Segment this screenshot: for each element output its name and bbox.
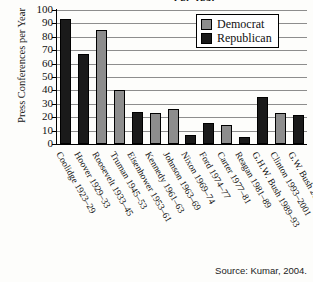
y-axis-tick <box>52 64 57 65</box>
gridline <box>57 77 307 78</box>
bar <box>168 109 179 144</box>
chart-title: Per Year <box>120 0 270 1</box>
y-axis-tick-label-wrap: 60 <box>29 58 53 69</box>
y-axis-tick-label: 90 <box>31 17 53 28</box>
gridline <box>57 90 307 91</box>
bar <box>203 123 214 144</box>
y-axis-tick <box>52 131 57 132</box>
y-axis-title: Press Conferences per Year <box>16 0 27 141</box>
bar <box>275 113 286 144</box>
y-axis-tick <box>52 37 57 38</box>
y-axis-tick-label: 60 <box>31 58 53 69</box>
gridline <box>57 64 307 65</box>
y-axis-tick-label-wrap: 40 <box>29 84 53 95</box>
bar <box>239 137 250 144</box>
chart-legend: Democrat Republican <box>196 14 279 48</box>
y-axis-tick-label-wrap: 90 <box>29 17 53 28</box>
y-axis-tick-label-wrap: 30 <box>29 98 53 109</box>
gridline <box>57 50 307 51</box>
y-axis-tick-label: 100 <box>31 4 53 15</box>
y-axis-tick <box>52 117 57 118</box>
x-axis-line <box>56 144 307 145</box>
bar <box>96 30 107 144</box>
y-axis-tick-label: 50 <box>31 71 53 82</box>
legend-label-republican: Republican <box>217 32 272 44</box>
y-axis-tick-label-wrap: 0 <box>29 138 53 149</box>
y-axis-tick-label: 10 <box>31 125 53 136</box>
y-axis-tick <box>52 90 57 91</box>
y-axis-tick-label: 30 <box>31 98 53 109</box>
y-axis-tick <box>52 144 57 145</box>
bar <box>257 97 268 144</box>
y-axis-tick-label-wrap: 80 <box>29 31 53 42</box>
x-axis-tick-labels: Coolidge 1923–29Hoover 1929–33Roosevelt … <box>0 150 313 282</box>
y-axis-tick <box>52 50 57 51</box>
bar <box>114 90 125 144</box>
y-axis-tick-label-wrap: 50 <box>29 71 53 82</box>
press-conferences-bar-chart: Per Year Press Conferences per Year 0102… <box>0 0 313 282</box>
y-axis-tick-label-wrap: 20 <box>29 111 53 122</box>
y-axis-tick <box>52 23 57 24</box>
legend-swatch-republican-icon <box>201 33 212 44</box>
bar <box>185 135 196 144</box>
y-axis-tick-label: 40 <box>31 84 53 95</box>
bar <box>221 125 232 144</box>
gridline <box>57 104 307 105</box>
y-axis-tick-label: 80 <box>31 31 53 42</box>
source-note: Source: Kumar, 2004. <box>215 265 307 276</box>
y-axis-tick-label-wrap: 70 <box>29 44 53 55</box>
bar <box>293 115 304 144</box>
y-axis-tick-label: 20 <box>31 111 53 122</box>
y-axis-tick-label-wrap: 100 <box>29 4 53 15</box>
legend-item-democrat: Democrat <box>201 17 272 31</box>
y-axis-tick <box>52 10 57 11</box>
legend-label-democrat: Democrat <box>217 18 264 30</box>
legend-swatch-democrat-icon <box>201 19 212 30</box>
gridline <box>57 117 307 118</box>
y-axis-tick <box>52 104 57 105</box>
gridline <box>57 10 307 11</box>
bar <box>60 19 71 144</box>
gridline <box>57 131 307 132</box>
y-axis-tick <box>52 77 57 78</box>
y-axis-tick-label: 0 <box>31 138 53 149</box>
legend-item-republican: Republican <box>201 31 272 45</box>
y-axis-tick-label: 70 <box>31 44 53 55</box>
bar <box>132 112 143 144</box>
bar <box>78 54 89 144</box>
y-axis-tick-label-wrap: 10 <box>29 125 53 136</box>
bar <box>150 113 161 144</box>
